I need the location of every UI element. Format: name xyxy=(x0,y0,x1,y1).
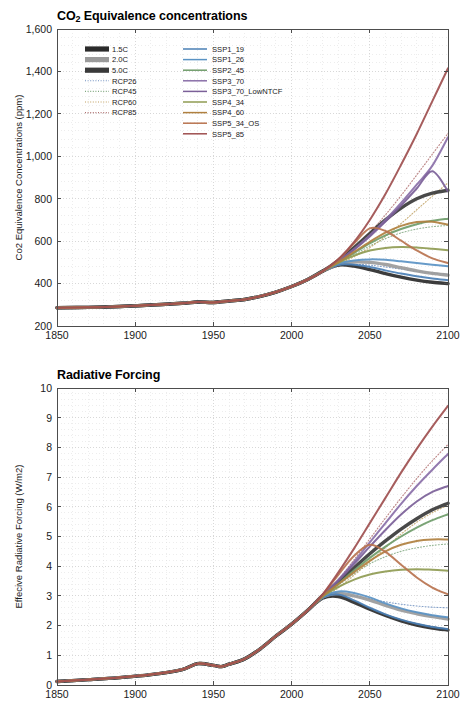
series-line-ssp4-60 xyxy=(57,539,448,681)
x-tick-label: 2000 xyxy=(280,688,304,700)
series-line-ssp1-26 xyxy=(57,591,448,681)
y-tick-label: 9 xyxy=(46,412,52,424)
series-line-1-5c xyxy=(57,596,448,681)
chart-legend: 1.5C2.0C5.0CRCP26RCP45RCP60RCP85SSP1_19S… xyxy=(85,45,283,139)
legend-label-ssp1-19: SSP1_19 xyxy=(212,45,244,54)
y-axis-label: Co2 Equivalence Concentrations (ppm) xyxy=(13,95,24,261)
x-tick-label: 2000 xyxy=(280,329,304,341)
legend-label-rcp45: RCP45 xyxy=(112,87,136,96)
legend-label-ssp5-34-os: SSP5_34_OS xyxy=(212,119,259,128)
series-line-2-0c xyxy=(57,262,448,308)
series-line-ssp3-70 xyxy=(57,137,448,308)
legend-label-rcp85: RCP85 xyxy=(112,108,136,117)
x-tick-label: 2050 xyxy=(358,688,382,700)
legend-label-5-0c: 5.0C xyxy=(112,66,129,75)
y-tick-label: 600 xyxy=(34,235,52,247)
y-tick-label: 1 xyxy=(46,649,52,661)
y-tick-label: 7 xyxy=(46,471,52,483)
y-tick-label: 2 xyxy=(46,619,52,631)
series-line-rcp45 xyxy=(57,544,448,682)
legend-label-ssp4-34: SSP4_34 xyxy=(212,98,244,107)
legend-label-1-5c: 1.5C xyxy=(112,45,129,54)
y-tick-label: 0 xyxy=(46,679,52,691)
y-tick-label: 4 xyxy=(46,560,52,572)
chart-radiative-forcing: 185019001950200020502100012345678910Effe… xyxy=(0,358,460,718)
y-tick-label: 5 xyxy=(46,530,52,542)
x-tick-label: 1950 xyxy=(202,688,226,700)
legend-label-ssp3-70-lowntcf: SSP3_70_LowNTCF xyxy=(212,87,283,96)
y-tick-label: 200 xyxy=(34,320,52,332)
panel-co2-equivalence: CO2 Equivalence concentrations 185019001… xyxy=(0,0,460,358)
series-line-2-0c xyxy=(57,594,448,682)
legend-swatch-5-0c xyxy=(85,68,109,73)
series-line-rcp60 xyxy=(57,183,448,308)
legend-swatch-2-0c xyxy=(85,57,109,62)
y-tick-label: 8 xyxy=(46,441,52,453)
legend-label-ssp2-45: SSP2_45 xyxy=(212,66,244,75)
x-tick-label: 1950 xyxy=(202,329,226,341)
y-axis-label: Effecive Radiative Forcing (W/m2) xyxy=(13,465,24,609)
series-line-rcp85 xyxy=(57,133,448,307)
series-line-5-0c xyxy=(57,190,448,308)
series-line-ssp3-70-lowntcf xyxy=(57,171,448,308)
y-tick-label: 1,400 xyxy=(26,65,52,77)
y-tick-label: 6 xyxy=(46,501,52,513)
y-tick-label: 3 xyxy=(46,590,52,602)
x-tick-label: 2050 xyxy=(358,329,382,341)
series-line-ssp5-34-os xyxy=(57,545,448,682)
x-tick-label: 1900 xyxy=(124,329,148,341)
chart-co2-equivalence: 1850190019502000205021002004006008001,00… xyxy=(0,0,460,358)
legend-label-ssp4-60: SSP4_60 xyxy=(212,108,244,117)
series-line-ssp1-19 xyxy=(57,264,448,308)
legend-label-rcp26: RCP26 xyxy=(112,77,136,86)
y-tick-label: 1,000 xyxy=(26,150,52,162)
legend-label-ssp3-70: SSP3_70 xyxy=(212,77,244,86)
series-line-ssp3-70 xyxy=(57,454,448,682)
y-tick-label: 1,200 xyxy=(26,108,52,120)
y-tick-label: 1,600 xyxy=(26,23,52,35)
x-tick-label: 1900 xyxy=(124,688,148,700)
x-tick-label: 2100 xyxy=(436,329,460,341)
y-tick-label: 400 xyxy=(34,277,52,289)
y-tick-label: 10 xyxy=(40,382,52,394)
series-line-ssp3-70-lowntcf xyxy=(57,486,448,681)
legend-label-ssp5-85: SSP5_85 xyxy=(212,130,244,139)
panel-radiative-forcing: Radiative Forcing 1850190019502000205021… xyxy=(0,358,460,718)
legend-label-rcp60: RCP60 xyxy=(112,98,136,107)
legend-label-ssp1-26: SSP1_26 xyxy=(212,55,244,64)
legend-label-2-0c: 2.0C xyxy=(112,55,129,64)
y-tick-label: 800 xyxy=(34,193,52,205)
figure-root: CO2 Equivalence concentrations 185019001… xyxy=(0,0,460,718)
series-line-rcp85 xyxy=(57,444,448,681)
x-tick-label: 2100 xyxy=(436,688,460,700)
legend-swatch-1-5c xyxy=(85,46,109,51)
